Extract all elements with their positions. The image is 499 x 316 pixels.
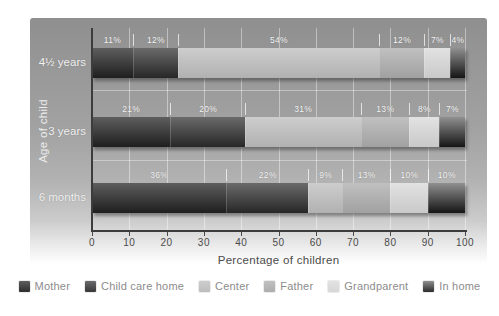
bar-segment [170,117,245,147]
axis-tick-label: 80 [373,237,407,248]
legend-label: Mother [35,280,70,292]
axis-tick [279,232,280,236]
axis-tick-label: 20 [150,237,184,248]
bar-segment [409,117,439,147]
legend-label: Grandparent [344,280,408,292]
bar-segment [178,48,379,78]
bar-segment [226,183,308,213]
axis-tick [465,232,466,236]
percent-label: 11% [92,34,133,46]
percent-label: 22% [226,169,308,181]
legend-swatch [85,281,96,292]
axis-tick [92,232,93,236]
percent-label-strip: 21%20%31%13%8%7% [92,103,465,115]
axis-tick-label: 100 [448,237,482,248]
percent-label: 7% [439,103,465,115]
y-axis-line [91,28,93,231]
axis-tick [390,232,391,236]
percent-label: 13% [361,103,409,115]
percent-label: 10% [428,169,465,181]
bar-segment [379,48,424,78]
percent-label: 21% [92,103,170,115]
percent-label: 4% [450,34,465,46]
gridline-vertical [465,28,466,231]
percent-label: 31% [245,103,361,115]
axis-tick [167,232,168,236]
percent-label: 7% [424,34,450,46]
axis-tick-label: 30 [187,237,221,248]
bar-segment [133,48,178,78]
stacked-bar-chart-figure: Age of child 11%12%54%12%7%4%4½ years21%… [0,0,499,316]
legend-label: Center [215,280,249,292]
bar-segment [308,183,342,213]
axis-tick [204,232,205,236]
axis-tick-label: 90 [411,237,445,248]
legend: MotherChild care homeCenterFatherGrandpa… [0,280,499,292]
percent-label: 36% [92,169,226,181]
legend-item: Grandparent [328,280,408,292]
bar-segment [92,48,133,78]
axis-tick [353,232,354,236]
axis-tick-label: 0 [75,237,109,248]
percent-label: 13% [342,169,390,181]
bar-segment [450,48,465,78]
bar-row [92,117,465,147]
gridline-horizontal [93,160,467,161]
category-label: 4½ years [18,56,86,68]
bar-segment [424,48,450,78]
legend-item: Father [264,280,313,292]
axis-tick [241,232,242,236]
percent-label: 10% [390,169,427,181]
legend-label: In home [439,280,480,292]
axis-tick-label: 40 [224,237,258,248]
bar-segment [245,117,361,147]
legend-item: Child care home [85,280,184,292]
legend-swatch [264,281,275,292]
legend-item: In home [423,280,480,292]
bar-segment [342,183,390,213]
axis-tick [316,232,317,236]
axis-tick-label: 70 [336,237,370,248]
legend-swatch [328,281,339,292]
bar-segment [92,117,170,147]
legend-swatch [19,281,30,292]
axis-tick-label: 10 [112,237,146,248]
percent-label: 8% [409,103,439,115]
legend-swatch [423,281,434,292]
legend-item: Mother [19,280,70,292]
legend-label: Father [280,280,313,292]
axis-tick-label: 50 [262,237,296,248]
percent-label-strip: 36%22%9%13%10%10% [92,169,465,181]
percent-label-strip: 11%12%54%12%7%4% [92,34,465,46]
legend-label: Child care home [101,280,184,292]
legend-item: Center [199,280,249,292]
bar-segment [439,117,465,147]
bar-segment [390,183,427,213]
bar-segment [92,183,226,213]
axis-tick-label: 60 [299,237,333,248]
gridline-horizontal [93,90,467,91]
percent-label: 54% [178,34,379,46]
legend-swatch [199,281,210,292]
axis-tick [129,232,130,236]
bar-segment [428,183,465,213]
x-axis-title: Percentage of children [92,254,465,266]
percent-label: 20% [170,103,245,115]
bar-row [92,48,465,78]
axis-tick [428,232,429,236]
category-label: 3 years [18,125,86,137]
percent-label: 12% [133,34,178,46]
bar-segment [361,117,409,147]
category-label: 6 months [18,191,86,203]
bar-row [92,183,465,213]
percent-label: 9% [308,169,342,181]
percent-label: 12% [379,34,424,46]
